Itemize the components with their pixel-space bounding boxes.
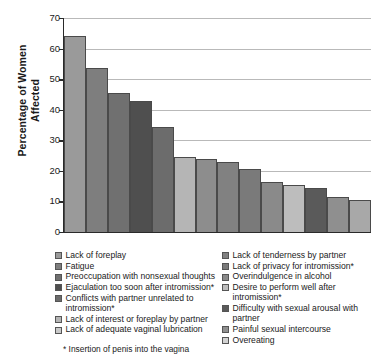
legend-item-label: Lack of adequate vaginal lubrication (66, 324, 203, 334)
bar (86, 68, 108, 232)
bar (174, 157, 196, 232)
y-axis-title-line1: Percentage of Women (16, 45, 28, 157)
bar (305, 188, 327, 232)
legend-swatch-icon (222, 326, 229, 333)
legend-swatch-icon (55, 284, 62, 291)
bar (108, 93, 130, 232)
legend-swatch-icon (55, 327, 62, 334)
bar (349, 200, 371, 232)
legend-item-label: Preoccupation with nonsexual thoughts (66, 271, 216, 281)
bar-chart: Percentage of Women Affected 70605040302… (0, 0, 378, 248)
y-tick-label: 20 (38, 166, 60, 176)
chart-legend: Lack of foreplayFatiguePreoccupation wit… (55, 250, 373, 342)
legend-item[interactable]: Lack of interest or foreplay by partner (55, 314, 227, 324)
legend-item[interactable]: Lack of adequate vaginal lubrication (55, 324, 227, 334)
legend-swatch-icon (55, 295, 62, 302)
legend-swatch-icon (222, 263, 229, 270)
legend-swatch-icon (55, 263, 62, 270)
legend-swatch-icon (55, 316, 62, 323)
legend-item[interactable]: Preoccupation with nonsexual thoughts (55, 271, 227, 281)
bar (130, 101, 152, 232)
bar-series (64, 18, 371, 232)
y-tick-label: 10 (38, 197, 60, 207)
legend-item[interactable]: Lack of foreplay (55, 250, 227, 260)
bar (196, 159, 218, 232)
legend-item-label: Overeating (233, 335, 275, 345)
legend-item[interactable]: Ejaculation too soon after intromission* (55, 282, 227, 292)
legend-item-label: Fatigue (66, 261, 95, 271)
y-axis-tick-labels: 706050403020100 (38, 18, 60, 232)
legend-swatch-icon (222, 274, 229, 281)
legend-item-label: Desire to perform well after intromissio… (233, 282, 375, 302)
y-tick-label: 60 (38, 44, 60, 54)
legend-item-label: Difficulty with sexual arousal with part… (233, 303, 375, 323)
legend-item[interactable]: Overindulgence in alcohol (222, 271, 374, 281)
legend-item[interactable]: Overeating (222, 335, 374, 345)
legend-column-left: Lack of foreplayFatiguePreoccupation wit… (55, 250, 227, 335)
bar (283, 185, 305, 232)
legend-swatch-icon (55, 274, 62, 281)
y-tick-mark (59, 232, 64, 233)
bar (327, 197, 349, 232)
legend-swatch-icon (222, 305, 229, 312)
y-tick-label: 70 (38, 13, 60, 23)
legend-item-label: Lack of foreplay (66, 250, 127, 260)
legend-column-right: Lack of tenderness by partnerLack of pri… (222, 250, 374, 345)
y-tick-label: 30 (38, 136, 60, 146)
y-axis-title: Percentage of Women Affected (16, 26, 41, 176)
bar (217, 162, 239, 232)
plot-area (63, 18, 371, 233)
legend-item-label: Conflicts with partner unrelated to intr… (66, 293, 228, 313)
y-tick-label: 40 (38, 105, 60, 115)
legend-item-label: Overindulgence in alcohol (233, 271, 332, 281)
legend-item[interactable]: Desire to perform well after intromissio… (222, 282, 374, 302)
bar (239, 169, 261, 232)
legend-item[interactable]: Conflicts with partner unrelated to intr… (55, 293, 227, 313)
footnote: * Insertion of penis into the vagina (63, 344, 189, 354)
legend-item[interactable]: Fatigue (55, 261, 227, 271)
legend-item[interactable]: Lack of privacy for intromission* (222, 261, 374, 271)
legend-swatch-icon (55, 252, 62, 259)
bar (152, 127, 174, 232)
legend-item[interactable]: Lack of tenderness by partner (222, 250, 374, 260)
bar (261, 182, 283, 232)
legend-item[interactable]: Painful sexual intercourse (222, 324, 374, 334)
legend-item-label: Lack of interest or foreplay by partner (66, 314, 208, 324)
y-tick-label: 50 (38, 74, 60, 84)
legend-item-label: Ejaculation too soon after intromission* (66, 282, 215, 292)
legend-swatch-icon (222, 252, 229, 259)
legend-item-label: Lack of privacy for intromission* (233, 261, 354, 271)
bar (64, 36, 86, 232)
legend-swatch-icon (222, 284, 229, 291)
legend-swatch-icon (222, 337, 229, 344)
legend-item-label: Lack of tenderness by partner (233, 250, 347, 260)
legend-item-label: Painful sexual intercourse (233, 324, 331, 334)
legend-item[interactable]: Difficulty with sexual arousal with part… (222, 303, 374, 323)
y-tick-label: 0 (38, 227, 60, 237)
